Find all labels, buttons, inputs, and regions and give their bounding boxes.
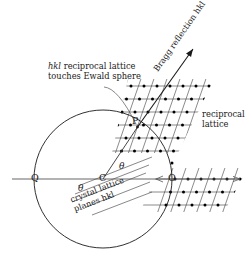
- theta-label-lower: θ: [78, 183, 83, 194]
- reciprocal-lattice-line2: lattice: [202, 119, 228, 129]
- point-label-p: P: [132, 115, 138, 126]
- reciprocal-lattice-label: reciprocal lattice: [202, 110, 245, 130]
- ewald-callout-label: hkl reciprocal lattice touches Ewald sph…: [48, 62, 141, 82]
- ewald-callout-hkl: hkl: [48, 61, 61, 71]
- point-label-o: O: [168, 172, 176, 183]
- theta-label-upper: θ: [119, 161, 124, 172]
- reciprocal-lattice-line1: reciprocal: [202, 109, 245, 119]
- ewald-sphere-diagram: hkl reciprocal lattice touches Ewald sph…: [0, 0, 251, 257]
- reciprocal-lattice-lower: [140, 162, 251, 252]
- point-label-q: Q: [31, 172, 39, 183]
- ewald-callout-line1-rest: reciprocal lattice: [61, 61, 135, 71]
- lattice-node-isolated: [171, 162, 174, 165]
- point-label-c: C: [99, 172, 106, 183]
- ewald-callout-line2: touches Ewald sphere: [48, 71, 141, 81]
